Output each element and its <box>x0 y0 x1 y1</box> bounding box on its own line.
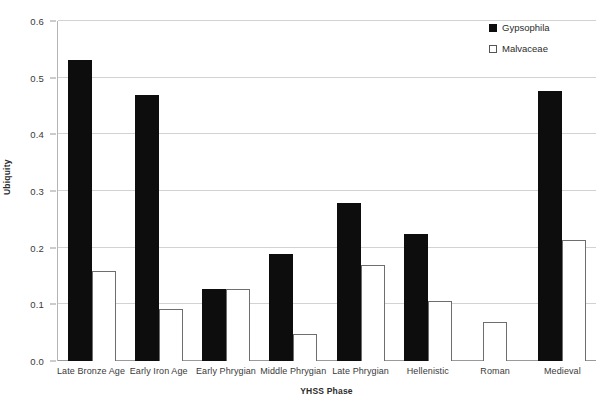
bar-group <box>58 21 125 361</box>
legend-label: Gypsophila <box>502 22 550 33</box>
bar-malvaceae[interactable] <box>361 265 385 361</box>
bar-pair <box>462 21 529 361</box>
bar-pair <box>260 21 327 361</box>
y-axis-tick-mark <box>50 191 56 192</box>
x-axis-tick-label: Hellenistic <box>394 366 461 376</box>
x-axis-tick-label: Early Phrygian <box>192 366 259 376</box>
y-axis-tick-mark <box>50 361 56 362</box>
plot-area <box>57 21 596 361</box>
bar-gypsophila[interactable] <box>404 234 428 362</box>
bar-pair <box>394 21 461 361</box>
bar-group <box>193 21 260 361</box>
x-axis-title: YHSS Phase <box>57 386 596 396</box>
y-axis-tick-label: 0.1 <box>30 299 44 310</box>
y-axis-tick-label: 0.0 <box>30 356 44 367</box>
bar-malvaceae[interactable] <box>428 301 452 361</box>
x-axis-tick-label: Early Iron Age <box>125 366 192 376</box>
y-axis-tick-label: 0.6 <box>30 16 44 27</box>
x-axis-ticks: Late Bronze AgeEarly Iron AgeEarly Phryg… <box>57 366 596 376</box>
bar-gypsophila[interactable] <box>135 95 159 361</box>
bar-group <box>394 21 461 361</box>
bar-malvaceae[interactable] <box>562 240 586 361</box>
bar-pair <box>58 21 125 361</box>
bar-groups <box>58 21 596 361</box>
y-axis-tick-mark <box>50 134 56 135</box>
y-axis-title: Ubiquity <box>2 159 12 195</box>
legend-entry[interactable]: Gypsophila <box>489 22 550 33</box>
bar-gypsophila[interactable] <box>337 203 361 361</box>
bar-group <box>462 21 529 361</box>
bar-pair <box>125 21 192 361</box>
bar-chart: 0.60.50.40.30.20.10.0 Ubiquity Late Bron… <box>0 0 616 409</box>
bar-malvaceae[interactable] <box>92 271 116 361</box>
bar-malvaceae[interactable] <box>483 322 507 361</box>
y-axis-tick-label: 0.4 <box>30 129 44 140</box>
bar-malvaceae[interactable] <box>159 309 183 361</box>
hollow-square-icon <box>489 45 497 53</box>
x-axis-tick-label: Roman <box>461 366 528 376</box>
bar-pair <box>327 21 394 361</box>
x-axis-tick-label: Late Phrygian <box>327 366 394 376</box>
x-axis-tick-label: Middle Phrygian <box>260 366 327 376</box>
bar-gypsophila[interactable] <box>269 254 293 361</box>
bar-group <box>260 21 327 361</box>
y-axis-tick-mark <box>50 21 56 22</box>
bar-group <box>529 21 596 361</box>
y-axis-tick-mark <box>50 247 56 248</box>
x-axis-tick-label: Medieval <box>529 366 596 376</box>
legend: GypsophilaMalvaceae <box>489 22 550 64</box>
bar-group <box>125 21 192 361</box>
legend-label: Malvaceae <box>502 43 548 54</box>
y-axis-tick-mark <box>50 304 56 305</box>
filled-square-icon <box>489 24 497 32</box>
bar-malvaceae[interactable] <box>293 334 317 361</box>
bar-gypsophila[interactable] <box>202 289 226 361</box>
x-axis-tick-label: Late Bronze Age <box>57 366 125 376</box>
y-axis-tick-label: 0.3 <box>30 186 44 197</box>
bar-gypsophila[interactable] <box>538 91 562 361</box>
y-axis-tick-label: 0.2 <box>30 242 44 253</box>
y-axis-tick-label: 0.5 <box>30 72 44 83</box>
bar-malvaceae[interactable] <box>226 289 250 361</box>
bar-gypsophila[interactable] <box>68 60 92 361</box>
bar-pair <box>193 21 260 361</box>
bar-group <box>327 21 394 361</box>
y-axis-tick-mark <box>50 77 56 78</box>
legend-entry[interactable]: Malvaceae <box>489 43 550 54</box>
bar-pair <box>529 21 596 361</box>
